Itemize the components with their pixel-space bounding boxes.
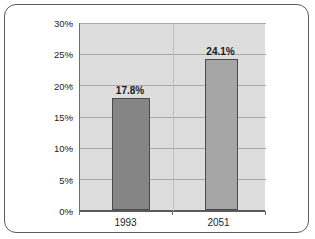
y-axis-tick-label: 25% — [9, 49, 73, 60]
y-axis-tick-mark — [69, 23, 73, 24]
x-axis-tick-mark — [79, 211, 80, 215]
y-axis-tick-mark — [69, 85, 73, 86]
bar-1993 — [112, 98, 150, 210]
y-axis: 0%5%10%15%20%25%30% — [5, 23, 73, 211]
chart-card: 0%5%10%15%20%25%30% 17.8%24.1% 19932051 — [4, 4, 309, 233]
y-axis-tick-mark — [69, 211, 73, 212]
y-axis-tick-label: 20% — [9, 80, 73, 91]
plot-area — [79, 23, 265, 211]
y-axis-tick-mark — [69, 179, 73, 180]
x-axis-tick-mark — [265, 211, 266, 215]
y-axis-tick-mark — [69, 117, 73, 118]
plot-wrapper: 17.8%24.1% — [79, 23, 265, 211]
y-axis-tick-label: 15% — [9, 112, 73, 123]
y-axis-tick-label: 10% — [9, 143, 73, 154]
y-axis-tick-label: 5% — [9, 174, 73, 185]
bar-value-label: 24.1% — [206, 46, 234, 57]
y-axis-tick-label: 30% — [9, 18, 73, 29]
x-axis-category-label: 2051 — [207, 217, 229, 228]
x-axis-category-label: 1993 — [114, 217, 136, 228]
bar-2051 — [205, 59, 238, 210]
y-axis-tick-label: 0% — [9, 206, 73, 217]
y-axis-tick-mark — [69, 148, 73, 149]
x-axis-tick-mark — [172, 211, 173, 215]
x-axis: 19932051 — [79, 211, 265, 235]
category-divider — [173, 23, 174, 211]
bar-value-label: 17.8% — [116, 85, 144, 96]
y-axis-tick-mark — [69, 54, 73, 55]
